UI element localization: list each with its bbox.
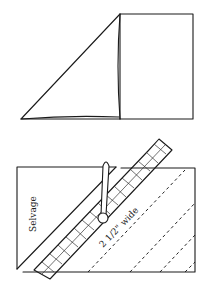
cutter-blade xyxy=(98,213,108,223)
cutter-handle xyxy=(101,162,109,215)
folded-triangle xyxy=(21,14,120,119)
cutting-figure: Selvage 2 1/2" wide xyxy=(17,139,195,279)
selvage-label: Selvage xyxy=(28,196,38,232)
fabric-square xyxy=(120,14,193,119)
rotary-cutter xyxy=(98,162,109,223)
diagram-canvas: Selvage 2 1/2" wide xyxy=(0,0,209,290)
fabric-right-edge xyxy=(23,168,195,272)
cut-line-2 xyxy=(130,203,195,272)
cut-line-3 xyxy=(160,235,195,272)
cut-line-4 xyxy=(185,262,195,272)
folded-fabric-figure xyxy=(21,14,193,119)
